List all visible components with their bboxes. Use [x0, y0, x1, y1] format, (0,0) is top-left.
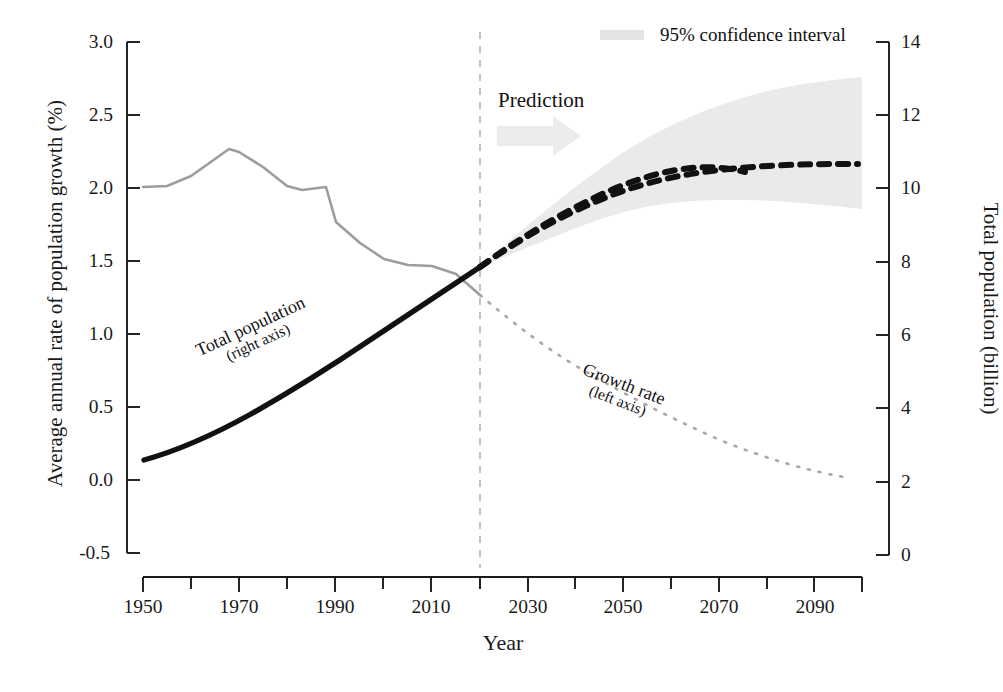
bottom-caption-fragment — [0, 676, 997, 690]
x-tick-1990: 1990 — [290, 596, 380, 618]
left-axis — [127, 42, 140, 553]
y-right-tick-14: 14 — [901, 31, 949, 53]
y-axis-left-title: Average annual rate of population growth… — [43, 34, 68, 554]
prediction-arrow-icon — [497, 116, 581, 156]
y-right-tick-2: 2 — [901, 471, 949, 493]
y-right-tick-4: 4 — [901, 397, 949, 419]
x-tick-2030: 2030 — [483, 596, 573, 618]
y-right-tick-0: 0 — [901, 544, 949, 566]
x-tick-2010: 2010 — [386, 596, 476, 618]
y-right-tick-8: 8 — [901, 251, 949, 273]
x-axis — [143, 577, 862, 592]
right-axis — [876, 42, 889, 555]
x-axis-title: Year — [343, 630, 663, 656]
y-right-tick-12: 12 — [901, 104, 949, 126]
series-growth-rate-historical — [143, 149, 480, 295]
y-right-tick-6: 6 — [901, 324, 949, 346]
x-tick-2050: 2050 — [578, 596, 668, 618]
x-tick-1970: 1970 — [194, 596, 284, 618]
series-growth-rate-prediction — [480, 295, 850, 478]
prediction-annotation-label: Prediction — [498, 88, 584, 113]
x-tick-2070: 2070 — [674, 596, 764, 618]
x-tick-2090: 2090 — [770, 596, 860, 618]
legend-label-confidence-interval: 95% confidence interval — [660, 24, 846, 46]
y-right-tick-10: 10 — [901, 177, 949, 199]
legend-swatch — [600, 30, 644, 40]
series-total-population-historical — [144, 267, 480, 460]
x-tick-1950: 1950 — [98, 596, 188, 618]
y-axis-right-title: Total population (billion) — [978, 49, 1003, 569]
